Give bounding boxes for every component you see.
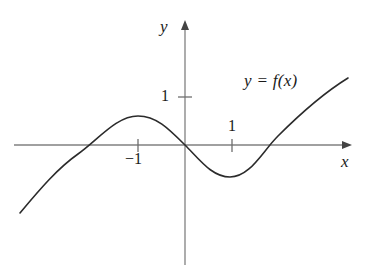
curve-equation-label: y = f(x) [244, 72, 298, 89]
x-tick-label-negative-1: −1 [125, 151, 142, 167]
y-axis-label: y [160, 18, 168, 35]
x-tick-label-1: 1 [228, 118, 236, 134]
graph-canvas [0, 0, 375, 277]
y-tick-label-1: 1 [161, 88, 169, 104]
x-axis-label: x [341, 153, 349, 170]
figure-container: y x 1 −1 1 y = f(x) [0, 0, 375, 277]
axes-group [14, 30, 342, 265]
